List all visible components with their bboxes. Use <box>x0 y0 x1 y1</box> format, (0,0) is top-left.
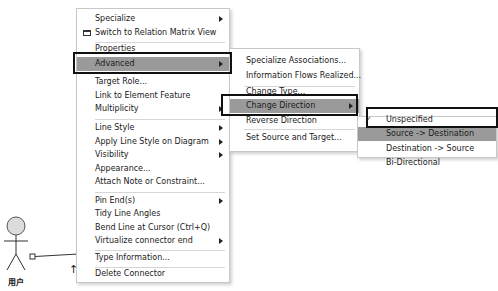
menu-item-set-source-target[interactable]: Set Source and Target... <box>230 131 359 145</box>
menu-item-source-to-destination[interactable]: Source -> Destination <box>358 127 496 141</box>
menu-item-apply-line-style[interactable]: Apply Line Style on Diagram <box>77 135 229 149</box>
submenu-arrow-icon <box>219 152 223 158</box>
connector-line[interactable] <box>28 250 80 262</box>
menu-separator <box>95 192 225 193</box>
menu-item-multiplicity[interactable]: Multiplicity <box>77 102 229 116</box>
submenu-arrow-icon <box>219 16 223 22</box>
menu-item-specialize-associations[interactable]: Specialize Associations... <box>230 54 359 68</box>
submenu-arrow-icon <box>219 238 223 244</box>
menu-item-attach-note[interactable]: Attach Note or Constraint... <box>77 175 229 189</box>
callout-advanced <box>73 52 232 74</box>
actor-head-icon <box>7 217 25 235</box>
actor-label: 用户 <box>8 276 24 287</box>
callout-change-direction <box>221 94 358 116</box>
menu-item-tidy-line-angles[interactable]: Tidy Line Angles <box>77 207 229 221</box>
submenu-arrow-icon <box>219 139 223 145</box>
submenu-arrow-icon <box>219 125 223 131</box>
menu-item-target-role[interactable]: Target Role... <box>77 75 229 89</box>
menu-item-link-element-feature[interactable]: Link to Element Feature <box>77 89 229 103</box>
menu-item-reverse-direction[interactable]: Reverse Direction <box>230 114 359 128</box>
menu-item-type-information[interactable]: Type Information... <box>77 251 229 265</box>
menu-separator <box>95 119 225 120</box>
menu-item-appearance[interactable]: Appearance... <box>77 162 229 176</box>
menu-item-destination-to-source[interactable]: Destination -> Source <box>358 142 496 156</box>
callout-source-destination <box>366 107 498 128</box>
menu-item-virtualize-end[interactable]: Virtualize connector end <box>77 234 229 248</box>
context-menu: Specialize Switch to Relation Matrix Vie… <box>76 8 230 283</box>
menu-separator <box>244 129 355 130</box>
matrix-view-icon <box>83 30 91 36</box>
submenu-arrow-icon <box>219 198 223 204</box>
menu-item-information-flows[interactable]: Information Flows Realized... <box>230 69 359 83</box>
actor-figure[interactable] <box>0 212 40 276</box>
menu-item-line-style[interactable]: Line Style <box>77 121 229 135</box>
menu-item-bi-directional[interactable]: Bi-Directional <box>358 156 496 170</box>
menu-item-bend-line[interactable]: Bend Line at Cursor (Ctrl+Q) <box>77 221 229 235</box>
menu-item-switch-matrix[interactable]: Switch to Relation Matrix View <box>77 26 229 40</box>
menu-item-visibility[interactable]: Visibility <box>77 148 229 162</box>
menu-item-pin-ends[interactable]: Pin End(s) <box>77 194 229 208</box>
menu-item-specialize[interactable]: Specialize <box>77 12 229 26</box>
menu-item-delete-connector[interactable]: Delete Connector <box>77 267 229 281</box>
